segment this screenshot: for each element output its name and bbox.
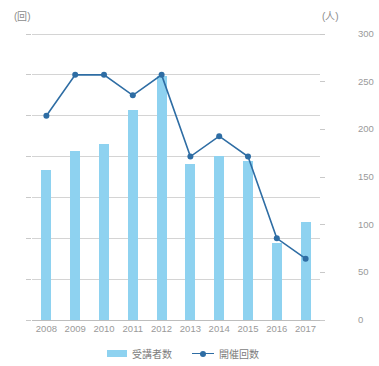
- x-axis-tick-label: 2011: [118, 324, 148, 334]
- right-axis-tick-label: 0: [358, 315, 379, 325]
- line-marker: [187, 154, 193, 160]
- left-axis-tick-mark: [26, 74, 31, 75]
- line-marker: [274, 235, 280, 241]
- line-marker: [101, 72, 107, 78]
- right-axis-tick-label: 250: [358, 77, 379, 87]
- line-marker: [43, 113, 49, 119]
- left-axis-tick-mark: [26, 34, 31, 35]
- x-axis-tick-label: 2013: [175, 324, 205, 334]
- right-axis-tick-mark: [320, 320, 325, 321]
- right-axis-tick-mark: [320, 81, 325, 82]
- x-axis-labels: 2008200920102011201220132014201520162017: [32, 324, 320, 340]
- right-axis-tick-label: 50: [358, 267, 379, 277]
- x-axis-tick-label: 2008: [31, 324, 61, 334]
- right-axis-tick-label: 150: [358, 172, 379, 182]
- left-axis-tick-mark: [26, 320, 31, 321]
- line-marker: [245, 154, 251, 160]
- x-axis-tick-label: 2014: [204, 324, 234, 334]
- line-series-開催回数: [32, 34, 320, 320]
- x-axis-tick-label: 2009: [60, 324, 90, 334]
- x-axis-tick-label: 2012: [147, 324, 177, 334]
- left-axis-tick-mark: [26, 197, 31, 198]
- right-axis-tick-mark: [320, 224, 325, 225]
- line-path: [46, 75, 305, 259]
- legend-label-line: 開催回数: [219, 346, 259, 361]
- line-marker: [303, 256, 309, 262]
- right-axis-tick-mark: [320, 34, 325, 35]
- x-axis-tick-label: 2017: [291, 324, 321, 334]
- x-axis-tick-label: 2015: [233, 324, 263, 334]
- plot-area: 02468101214 050100150200250300: [32, 34, 320, 320]
- left-axis-unit-label: (回): [14, 8, 31, 23]
- legend-label-bar: 受講者数: [132, 346, 172, 361]
- x-axis-tick-label: 2010: [89, 324, 119, 334]
- right-axis-tick-label: 300: [358, 29, 379, 39]
- line-marker: [130, 92, 136, 98]
- line-marker: [72, 72, 78, 78]
- left-axis-tick-mark: [26, 115, 31, 116]
- x-axis-tick-label: 2016: [262, 324, 292, 334]
- right-axis-tick-label: 200: [358, 124, 379, 134]
- chart-legend: 受講者数 開催回数: [0, 346, 366, 361]
- legend-item-line[interactable]: 開催回数: [192, 346, 259, 361]
- legend-item-bar[interactable]: 受講者数: [107, 346, 172, 361]
- left-axis-tick-mark: [26, 156, 31, 157]
- right-axis-tick-mark: [320, 177, 325, 178]
- right-axis-tick-mark: [320, 272, 325, 273]
- line-marker: [159, 72, 165, 78]
- line-dot-swatch-icon: [192, 350, 214, 358]
- left-axis-tick-mark: [26, 238, 31, 239]
- right-axis-tick-mark: [320, 129, 325, 130]
- line-marker: [216, 133, 222, 139]
- right-axis-tick-label: 100: [358, 220, 379, 230]
- bar-swatch-icon: [107, 350, 127, 357]
- left-axis-tick-mark: [26, 279, 31, 280]
- right-axis-unit-label: (人): [322, 8, 339, 23]
